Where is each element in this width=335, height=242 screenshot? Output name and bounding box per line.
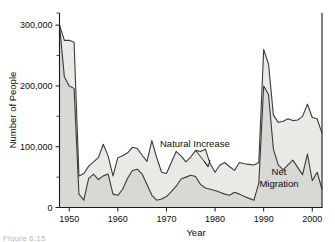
y-tick-label: 100,000 [20, 142, 53, 152]
net-migration-label-line1: Net [272, 166, 287, 177]
x-axis-title: Year [186, 227, 205, 238]
y-axis-title: Number of People [7, 72, 18, 149]
net-migration-label-line2: Migration [259, 178, 298, 189]
x-tick-label: 2000 [302, 214, 322, 224]
y-tick-label: 200,000 [20, 81, 53, 91]
x-tick-label: 1990 [254, 214, 274, 224]
y-tick-label: 300,000 [20, 20, 53, 30]
x-tick-label: 1970 [156, 214, 176, 224]
area-chart: 0100,000200,000300,000 19501960197019801… [0, 0, 335, 242]
x-tick-label: 1960 [108, 214, 128, 224]
y-tick-label: 0 [47, 203, 52, 213]
x-tick-label: 1950 [59, 214, 79, 224]
x-axis-ticks: 195019601970198019902000 [59, 208, 322, 224]
natural-increase-label: Natural Increase [160, 138, 230, 149]
figure-caption: Figure 6.15 [3, 234, 46, 242]
x-tick-label: 1980 [205, 214, 225, 224]
y-axis-ticks: 0100,000200,000300,000 [20, 13, 60, 213]
chart-container: 0100,000200,000300,000 19501960197019801… [0, 0, 335, 242]
